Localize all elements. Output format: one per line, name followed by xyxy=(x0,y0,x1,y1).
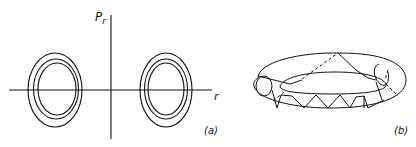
helix-hidden-3 xyxy=(386,84,398,96)
figure: Pr r (a) (b) xyxy=(0,0,416,147)
helix-top-left xyxy=(258,76,302,84)
panel-a xyxy=(9,15,212,139)
helix-hidden-1 xyxy=(302,53,338,79)
orbit-inner-right xyxy=(148,63,184,115)
orbit-inner-left xyxy=(38,63,76,115)
x-axis-label: r xyxy=(214,90,220,103)
orbit-middle-right xyxy=(145,59,188,119)
y-axis-label: Pr xyxy=(95,10,107,26)
caption-b: (b) xyxy=(394,125,408,136)
torus-inner-edge xyxy=(280,72,386,94)
caption-a: (a) xyxy=(204,125,218,136)
panel-b xyxy=(254,53,406,108)
orbit-middle-left xyxy=(34,59,79,119)
helix-hidden-4 xyxy=(385,70,388,80)
